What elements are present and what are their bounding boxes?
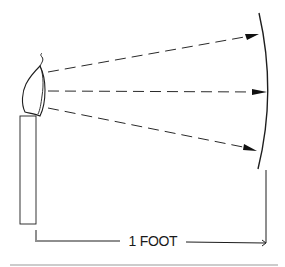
ray-upper — [48, 36, 250, 72]
light-rays — [48, 34, 267, 151]
ray-center-arrowhead — [252, 89, 267, 95]
candle-body — [20, 116, 36, 224]
candle-flame-icon — [22, 53, 45, 116]
dimension-label: 1 FOOT — [129, 233, 179, 249]
ray-lower-arrowhead — [243, 144, 257, 151]
ray-center — [48, 91, 258, 92]
ray-lower — [48, 108, 248, 148]
ray-upper-arrowhead — [245, 34, 259, 40]
candle-inverse-square-diagram: 1 FOOT — [0, 0, 285, 267]
